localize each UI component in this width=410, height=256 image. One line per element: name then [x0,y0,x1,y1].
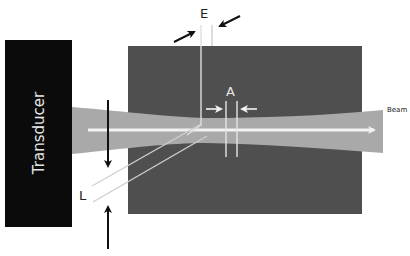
lateral-label: L [79,188,87,203]
axial-label: A [226,84,235,99]
elevational-arrow-left-icon [174,32,194,42]
beam-label: Beam [387,106,407,114]
beam-resolution-diagram: Transducer Beam E A L [0,0,410,256]
elevational-arrow-right-icon [220,16,240,26]
elevational-label: E [200,6,208,21]
transducer-label: Transducer [30,91,48,175]
